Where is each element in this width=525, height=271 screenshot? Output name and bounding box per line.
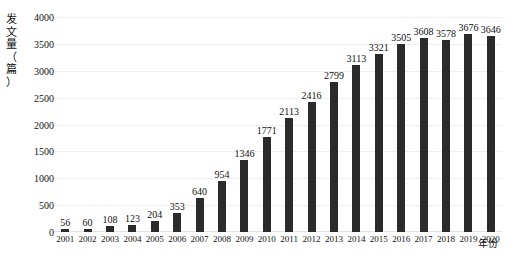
- bar-value-label: 3321: [369, 42, 389, 53]
- y-tick-label: 4000: [20, 12, 54, 23]
- bar[interactable]: [442, 40, 450, 232]
- bar[interactable]: [61, 229, 69, 232]
- x-tick-label: 2017: [412, 234, 434, 244]
- y-tick-label: 1000: [20, 173, 54, 184]
- bar-slot: 353: [166, 17, 188, 232]
- bar[interactable]: [352, 65, 360, 232]
- bar-chart: 发 文 量 （ 篇 ） 0500100015002000250030003500…: [0, 0, 525, 271]
- y-tick-label: 1500: [20, 146, 54, 157]
- x-tick-label: 2018: [435, 234, 457, 244]
- y-tick-label: 2500: [20, 92, 54, 103]
- bar[interactable]: [397, 44, 405, 232]
- plot-area: 5660108123204353640954134617712113241627…: [54, 17, 502, 232]
- x-tick-label: 2001: [54, 234, 76, 244]
- bar[interactable]: [464, 34, 472, 232]
- bar-value-label: 640: [192, 186, 207, 197]
- x-tick-label: 2016: [390, 234, 412, 244]
- y-tick-label: 500: [20, 200, 54, 211]
- bar[interactable]: [263, 137, 271, 232]
- bar-value-label: 1346: [234, 148, 254, 159]
- bar[interactable]: [285, 118, 293, 232]
- bar-slot: 2113: [278, 17, 300, 232]
- bar-slot: 3608: [412, 17, 434, 232]
- x-tick-label: 2006: [166, 234, 188, 244]
- bar[interactable]: [487, 36, 495, 232]
- bar-value-label: 954: [214, 169, 229, 180]
- bar-value-label: 56: [60, 217, 70, 228]
- bar-value-label: 353: [170, 201, 185, 212]
- bar-value-label: 3676: [458, 22, 478, 33]
- bar-value-label: 60: [83, 217, 93, 228]
- bar[interactable]: [84, 229, 92, 232]
- bar[interactable]: [106, 226, 114, 232]
- bar-value-label: 108: [102, 214, 117, 225]
- bar-value-label: 3113: [347, 53, 367, 64]
- bar-slot: 204: [144, 17, 166, 232]
- bar-slot: 60: [76, 17, 98, 232]
- bar[interactable]: [308, 102, 316, 232]
- bar[interactable]: [240, 160, 248, 232]
- bar-value-label: 3608: [414, 26, 434, 37]
- bar-slot: 1346: [233, 17, 255, 232]
- bar-slot: 3505: [390, 17, 412, 232]
- x-tick-label: 2015: [368, 234, 390, 244]
- x-tick-label: 2003: [99, 234, 121, 244]
- x-tick-label: 2009: [233, 234, 255, 244]
- bar[interactable]: [375, 54, 383, 233]
- bar-slot: 3646: [480, 17, 502, 232]
- bar-value-label: 3505: [391, 32, 411, 43]
- x-tick-label: 2011: [278, 234, 300, 244]
- x-tick-label: 2002: [76, 234, 98, 244]
- bar-slot: 108: [99, 17, 121, 232]
- x-tick-label: 2014: [345, 234, 367, 244]
- bar-value-label: 3578: [436, 28, 456, 39]
- bar-slot: 3113: [345, 17, 367, 232]
- x-tick-label: 2005: [144, 234, 166, 244]
- bar-value-label: 204: [147, 209, 162, 220]
- bar-value-label: 123: [125, 213, 140, 224]
- x-tick-label: 2013: [323, 234, 345, 244]
- y-tick-label: 3500: [20, 38, 54, 49]
- x-tick-label: 2019: [457, 234, 479, 244]
- y-tick-label: 2000: [20, 119, 54, 130]
- x-tick-label: 2008: [211, 234, 233, 244]
- bar-slot: 3578: [435, 17, 457, 232]
- bar-value-label: 2799: [324, 70, 344, 81]
- bar[interactable]: [420, 38, 428, 232]
- bar-series: 5660108123204353640954134617712113241627…: [54, 17, 502, 232]
- y-tick-label: 0: [20, 227, 54, 238]
- x-tick-label: 2004: [121, 234, 143, 244]
- bar-slot: 2799: [323, 17, 345, 232]
- bar-slot: 123: [121, 17, 143, 232]
- bar-slot: 954: [211, 17, 233, 232]
- bar-slot: 3321: [368, 17, 390, 232]
- bar[interactable]: [151, 221, 159, 232]
- bar-value-label: 3646: [481, 24, 501, 35]
- bar[interactable]: [173, 213, 181, 232]
- bar-value-label: 1771: [257, 125, 277, 136]
- bar-value-label: 2113: [279, 106, 299, 117]
- bar-value-label: 2416: [302, 90, 322, 101]
- x-axis-title: 年份: [478, 235, 498, 250]
- x-tick-label: 2010: [256, 234, 278, 244]
- bar[interactable]: [196, 198, 204, 232]
- x-tick-label: 2007: [188, 234, 210, 244]
- y-axis-ticks: 05001000150020002500300035004000: [14, 0, 54, 271]
- bar-slot: 3676: [457, 17, 479, 232]
- bar[interactable]: [128, 225, 136, 232]
- bar-slot: 1771: [256, 17, 278, 232]
- y-tick-label: 3000: [20, 65, 54, 76]
- bar-slot: 2416: [300, 17, 322, 232]
- x-tick-label: 2012: [300, 234, 322, 244]
- x-axis-ticks: 2001200220032004200520062007200820092010…: [54, 234, 502, 250]
- bar[interactable]: [218, 181, 226, 232]
- bar-slot: 640: [188, 17, 210, 232]
- bar-slot: 56: [54, 17, 76, 232]
- bar[interactable]: [330, 82, 338, 232]
